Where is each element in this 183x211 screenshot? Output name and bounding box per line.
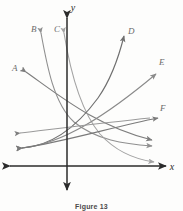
curve-E <box>22 74 156 148</box>
curve-C-path <box>64 33 154 162</box>
curve-E-path <box>22 74 156 148</box>
curve-C <box>64 33 154 162</box>
curve-label-B: B <box>31 24 37 34</box>
figure-13-diagram: x y A B C D E F Figure 13 <box>0 0 183 211</box>
x-axis-label: x <box>169 161 175 172</box>
curve-A-secondary-path <box>20 118 150 133</box>
curve-label-F: F <box>159 103 166 113</box>
curve-label-D: D <box>127 26 135 36</box>
curve-label-A: A <box>11 63 18 73</box>
coordinate-plane-svg: x y A B C D E F <box>0 0 183 211</box>
curve-label-E: E <box>158 57 165 67</box>
figure-caption: Figure 13 <box>0 203 183 210</box>
curve-A-secondary-ray <box>20 118 150 133</box>
curve-label-C: C <box>54 24 61 34</box>
y-axis-label: y <box>70 2 76 13</box>
